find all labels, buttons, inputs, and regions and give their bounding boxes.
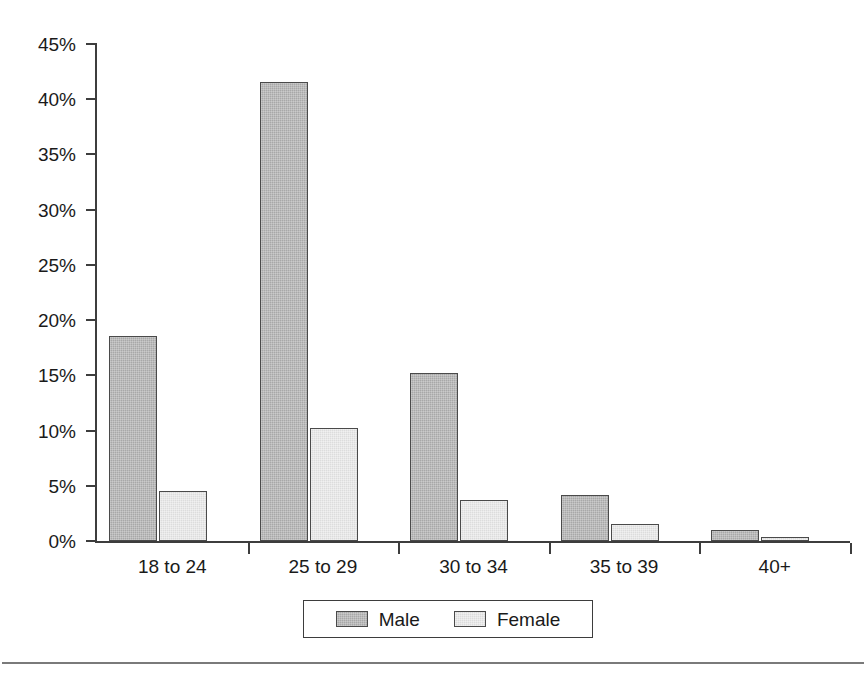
legend-label-female: Female [497,610,560,629]
x-axis-label-25-to-29: 25 to 29 [248,556,399,578]
chart-legend: MaleFemale [303,600,593,638]
x-axis-label-40plus: 40+ [699,556,850,578]
y-axis-tick-label: 5% [49,476,76,495]
plot-area-bars [97,44,850,541]
y-axis-tick: 10% [86,430,96,432]
y-axis-tick-label: 25% [38,255,76,274]
bar-female-35-to-39 [611,524,659,541]
y-axis-tick: 45% [86,43,96,45]
y-axis-tick: 15% [86,374,96,376]
legend-entry-male[interactable]: Male [336,610,420,629]
y-axis-tick-label: 15% [38,366,76,385]
bar-male-35-to-39 [561,495,609,541]
legend-label-male: Male [379,610,420,629]
x-axis-tick [549,543,551,554]
x-axis-tick [699,543,701,554]
bar-female-25-to-29 [310,428,358,541]
y-axis-tick-label: 30% [38,200,76,219]
y-axis-tick-label: 40% [38,90,76,109]
legend-entry-female[interactable]: Female [454,610,560,629]
y-axis-tick-label: 10% [38,421,76,440]
bar-male-18-to-24 [109,336,157,541]
legend-swatch-female [454,611,486,627]
y-axis-tick-label: 20% [38,311,76,330]
bar-chart-figure: 0%5%10%15%20%25%30%35%40%45% 18 to 2425 … [0,0,866,676]
x-axis-tick [248,543,250,554]
bar-male-30-to-34 [410,373,458,541]
y-axis-tick-label: 0% [49,532,76,551]
bar-female-30-to-34 [460,500,508,541]
bottom-divider-rule [2,662,864,664]
x-axis-label-18-to-24: 18 to 24 [97,556,248,578]
x-axis-tick [850,543,852,554]
x-axis-line [95,541,850,543]
legend-swatch-male [336,611,368,627]
x-axis-tick [398,543,400,554]
bar-female-18-to-24 [159,491,207,541]
y-axis-tick: 40% [86,98,96,100]
x-axis-label-30-to-34: 30 to 34 [398,556,549,578]
y-axis-tick: 5% [86,485,96,487]
y-axis-tick: 30% [86,209,96,211]
y-axis-tick-label: 35% [38,145,76,164]
x-axis-label-35-to-39: 35 to 39 [549,556,700,578]
y-axis-tick: 20% [86,319,96,321]
y-axis-tick-label: 45% [38,35,76,54]
y-axis-tick: 25% [86,264,96,266]
bar-male-25-to-29 [260,82,308,541]
y-axis-tick: 35% [86,153,96,155]
bar-male-40plus [711,530,759,541]
